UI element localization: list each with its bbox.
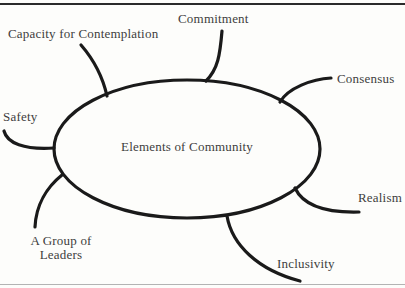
branch-label-safety: Safety (3, 110, 37, 123)
branch-curve-capacity-for-contemplation (81, 45, 107, 96)
branch-label-inclusivity: Inclusivity (277, 257, 335, 270)
elements-of-community-diagram: Elements of Community Commitment Capacit… (0, 0, 405, 288)
branch-label-commitment: Commitment (178, 12, 249, 25)
center-label: Elements of Community (121, 140, 253, 153)
branch-curve-consensus (280, 78, 331, 102)
branch-curve-realism (295, 188, 359, 212)
branch-label-a-group-of-leaders: A Group of Leaders (24, 234, 98, 261)
branch-label-consensus: Consensus (337, 72, 394, 85)
branch-curve-commitment (206, 31, 222, 81)
branch-curve-a-group-of-leaders (35, 175, 62, 227)
branch-label-realism: Realism (358, 191, 402, 204)
branch-curve-safety (4, 131, 54, 148)
branch-curve-inclusivity (227, 216, 300, 281)
branch-label-capacity-for-contemplation: Capacity for Contemplation (8, 27, 158, 40)
